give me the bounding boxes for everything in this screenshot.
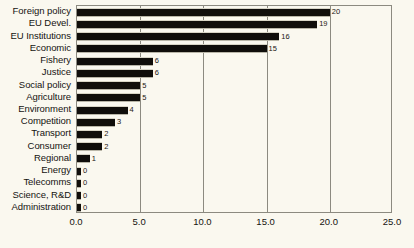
bar — [77, 81, 140, 90]
bar-value-label: 5 — [142, 94, 146, 102]
category-label: Regional — [34, 152, 71, 164]
x-axis-tick-label: 5.0 — [133, 216, 146, 228]
category-label: EU Institutions — [11, 30, 72, 42]
bar-value-label: 0 — [83, 167, 87, 175]
bar — [77, 106, 128, 115]
x-axis-tick-label: 0.0 — [69, 216, 82, 228]
bar-value-label: 16 — [281, 33, 289, 41]
bar-value-label: 2 — [104, 130, 108, 138]
bar-value-label: 19 — [319, 20, 327, 28]
bar — [77, 93, 140, 102]
bar-value-label: 6 — [155, 69, 159, 77]
bar — [77, 142, 102, 151]
category-label: Administration — [12, 201, 72, 213]
category-label: Telecomms — [23, 176, 71, 188]
bar-value-label: 1 — [92, 155, 96, 163]
bar — [77, 32, 279, 41]
category-label: Consumer — [28, 140, 71, 152]
bar — [77, 44, 267, 53]
bar — [77, 8, 330, 17]
category-label: Environment — [18, 103, 71, 115]
bar — [77, 69, 153, 78]
category-label: Transport — [31, 127, 71, 139]
category-axis-labels: Foreign policyEU Devel.EU InstitutionsEc… — [0, 5, 73, 213]
category-label: Fishery — [40, 54, 71, 66]
bar — [77, 167, 81, 176]
x-axis-tick-labels: 0.05.010.015.020.025.0 — [0, 216, 414, 232]
x-axis-tick-label: 10.0 — [193, 216, 212, 228]
bar — [77, 20, 317, 29]
bar-value-label: 5 — [142, 82, 146, 90]
bar — [77, 179, 81, 188]
bar-value-label: 0 — [83, 204, 87, 212]
x-axis-tick-label: 20.0 — [320, 216, 339, 228]
bar-value-label: 0 — [83, 192, 87, 200]
bar-value-label: 6 — [155, 57, 159, 65]
category-label: Social policy — [19, 79, 71, 91]
category-label: Competition — [21, 115, 71, 127]
bar — [77, 57, 153, 66]
plot-area: 201916156655432210000 — [76, 5, 392, 213]
category-label: Justice — [42, 66, 71, 78]
bar-chart: Foreign policyEU Devel.EU InstitutionsEc… — [0, 0, 414, 248]
bar-value-label: 20 — [332, 8, 340, 16]
bar — [77, 191, 81, 200]
bar-value-label: 2 — [104, 143, 108, 151]
bar-value-label: 15 — [269, 45, 277, 53]
category-label: EU Devel. — [29, 17, 71, 29]
bar-value-label: 3 — [117, 118, 121, 126]
x-axis-tick-label: 15.0 — [256, 216, 275, 228]
bar — [77, 154, 90, 163]
bar — [77, 203, 81, 212]
gridline — [330, 6, 331, 212]
category-label: Agriculture — [26, 91, 71, 103]
category-label: Foreign policy — [13, 5, 71, 17]
category-label: Energy — [41, 164, 71, 176]
bar-value-label: 4 — [130, 106, 134, 114]
category-label: Economic — [30, 42, 71, 54]
category-label: Science, R&D — [12, 189, 71, 201]
bar — [77, 118, 115, 127]
bar-value-label: 0 — [83, 179, 87, 187]
bar — [77, 130, 102, 139]
x-axis-tick-label: 25.0 — [383, 216, 402, 228]
